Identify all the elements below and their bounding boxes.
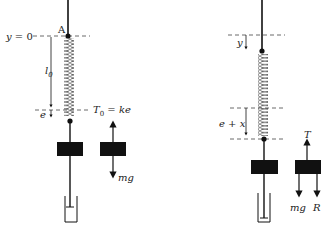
mass-block	[57, 142, 83, 156]
free-body-block	[100, 142, 126, 156]
spring-mass-damper-diagram: y = 0 A l0 e T0 = ke mg y	[0, 0, 323, 228]
weight-label: mg	[290, 202, 306, 213]
right-panel: y e + x T mg R	[219, 0, 321, 222]
anchor-point-a	[65, 33, 70, 38]
spring	[64, 38, 74, 116]
tension-label: T	[304, 129, 312, 140]
natural-length-label: l0	[45, 65, 53, 79]
dashpot	[65, 196, 77, 222]
point-a-label: A	[57, 24, 66, 35]
extension-label: e + x	[219, 118, 246, 129]
spring-top-point	[259, 48, 264, 53]
tension-equation-label: T0 = ke	[93, 104, 131, 118]
mass-block	[251, 160, 278, 174]
reference-line-label: y = 0	[5, 31, 33, 42]
free-body-block	[295, 160, 321, 174]
extension-label: e	[40, 109, 46, 120]
spring	[258, 54, 268, 136]
left-panel: y = 0 A l0 e T0 = ke mg	[5, 0, 134, 222]
resistance-label: R	[312, 202, 321, 213]
weight-label: mg	[118, 172, 134, 183]
displacement-label: y	[236, 37, 243, 48]
